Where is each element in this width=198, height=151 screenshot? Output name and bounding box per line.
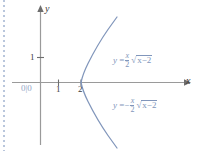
x-tick-label-2: 2 [78,85,83,94]
equation-upper-equals: = [119,55,124,65]
equation-upper-fraction: x2 [125,52,129,70]
origin-label: 0|0 [21,84,32,93]
curve-lower-branch [81,83,117,149]
y-axis-label: y [45,4,49,14]
equation-upper-denominator: 2 [125,60,129,69]
equation-lower-fraction: x2 [130,97,134,115]
figure-canvas: y x 1 1 2 0|0 y =x2√x−2 y =−x2√x−2 [0,0,198,151]
x-tick-label-1: 1 [56,85,61,94]
curve-upper-branch [81,17,117,83]
equation-lower-lhs: y [113,100,117,110]
equation-lower-numerator: x [130,97,134,105]
x-axis-label: x [186,76,190,86]
equation-upper-lhs: y [113,55,117,65]
equation-lower-branch: y =−x2√x−2 [113,97,157,115]
plot-svg [0,0,198,151]
equation-lower-denominator: 2 [130,105,134,114]
equation-upper-sqrt: √x−2 [130,55,152,65]
equation-upper-radicand: x−2 [136,55,152,65]
equation-lower-sign: − [124,100,129,110]
y-axis-arrow [37,5,43,12]
y-tick-label-1: 1 [30,53,35,62]
equation-upper-branch: y =x2√x−2 [113,52,152,70]
equation-upper-numerator: x [125,52,129,60]
equation-lower-radicand: x−2 [141,100,157,110]
equation-lower-sqrt: √x−2 [135,100,157,110]
